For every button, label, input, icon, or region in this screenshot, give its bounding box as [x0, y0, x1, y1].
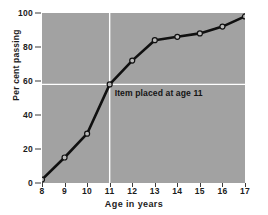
y-tick-label: 80 — [0, 42, 33, 52]
y-tick-mark — [35, 115, 41, 116]
data-point-marker — [175, 34, 180, 39]
y-tick-label: 100 — [0, 8, 33, 18]
y-tick-mark — [35, 13, 41, 14]
data-point-marker — [243, 14, 246, 19]
data-point-marker — [197, 31, 202, 36]
data-point-marker — [107, 82, 112, 87]
y-tick-label: 20 — [0, 144, 33, 154]
data-point-marker — [42, 177, 45, 182]
data-point-marker — [152, 38, 157, 43]
data-point-marker — [85, 131, 90, 136]
data-point-marker — [62, 155, 67, 160]
data-point-marker — [220, 24, 225, 29]
data-point-marker — [130, 58, 135, 63]
y-tick-mark — [35, 47, 41, 48]
chart-figure: Per cent passing 020406080100 8910111213… — [0, 0, 268, 215]
y-tick-mark — [35, 81, 41, 82]
y-tick-mark — [35, 149, 41, 150]
y-tick-label: 60 — [0, 76, 33, 86]
y-tick-mark — [35, 183, 41, 184]
chart-annotation: Item placed at age 11 — [115, 88, 203, 98]
y-axis-label: Per cent passing — [11, 5, 21, 125]
x-tick-label: 17 — [230, 186, 260, 196]
y-tick-label: 40 — [0, 110, 33, 120]
x-axis-label: Age in years — [0, 199, 268, 209]
